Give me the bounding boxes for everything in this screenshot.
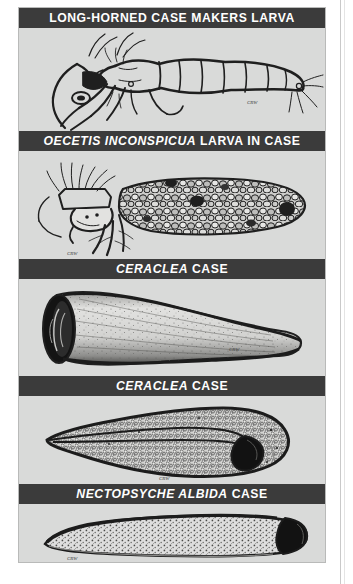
caption-bar-3: CERACLEA CASE (19, 259, 325, 279)
caption-italic-2: OECETIS INCONSPICUA (44, 134, 197, 148)
caption-label-1: LONG-HORNED CASE MAKERS LARVA (49, 12, 295, 24)
caption-label-3: CERACLEA CASE (116, 263, 228, 275)
page-gutter-line-secondary (344, 0, 345, 584)
artist-signature-4: CRW (159, 476, 170, 481)
caption-bar-4: CERACLEA CASE (19, 376, 325, 396)
caption-bar-5: NECTOPSYCHE ALBIDA CASE (19, 484, 325, 504)
caption-roman-2: LARVA IN CASE (200, 134, 300, 148)
caption-roman-4: CASE (192, 379, 228, 393)
artist-signature-3: CRW (229, 347, 240, 352)
artist-signature-2: CRW (67, 251, 78, 256)
artwork-slender-case: CRW (19, 504, 325, 564)
artwork-tube-case: CRW (19, 279, 325, 376)
artwork-larva-in-case: CRW (19, 151, 325, 259)
figure-oecetis-inconspicua-larva-in-case: OECETIS INCONSPICUA LARVA IN CASE (19, 131, 325, 259)
figure-long-horned-case-makers-larva: LONG-HORNED CASE MAKERS LARVA (19, 8, 325, 131)
caption-bar-2: OECETIS INCONSPICUA LARVA IN CASE (19, 131, 325, 151)
artist-signature-1: CRW (247, 100, 258, 105)
caption-roman-3: CASE (192, 262, 228, 276)
caption-bar-1: LONG-HORNED CASE MAKERS LARVA (19, 8, 325, 28)
figure-nectopsyche-albida-case: NECTOPSYCHE ALBIDA CASE (19, 484, 325, 564)
artwork-larva: CRW (19, 28, 325, 131)
caption-label-2: OECETIS INCONSPICUA LARVA IN CASE (44, 135, 301, 147)
caption-label-5: NECTOPSYCHE ALBIDA CASE (76, 488, 267, 500)
caption-roman-5: CASE (232, 487, 268, 501)
caption-italic-3: CERACLEA (116, 262, 188, 276)
illustration-plate: LONG-HORNED CASE MAKERS LARVA (18, 7, 326, 563)
caption-italic-5: NECTOPSYCHE ALBIDA (76, 487, 227, 501)
figure-ceraclea-case-sponge: CERACLEA CASE (19, 376, 325, 484)
page-gutter-line (340, 0, 341, 584)
caption-label-4: CERACLEA CASE (116, 380, 228, 392)
caption-italic-4: CERACLEA (116, 379, 188, 393)
artist-signature-5: CRW (67, 556, 78, 561)
artwork-sponge-case: CRW (19, 396, 325, 484)
figure-ceraclea-case-tube: CERACLEA CASE (19, 259, 325, 376)
